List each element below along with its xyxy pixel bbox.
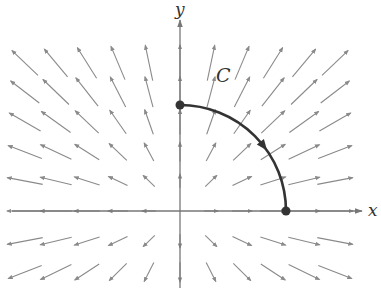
field-arrow-icon — [75, 111, 98, 133]
axes: x y — [12, 0, 378, 288]
field-arrow-icon — [41, 112, 70, 133]
field-arrow-icon — [109, 236, 128, 245]
field-arrow-icon — [44, 49, 67, 77]
field-arrow-icon — [43, 80, 69, 105]
field-arrow-icon — [145, 110, 154, 134]
curve-label: C — [216, 64, 231, 86]
field-arrow-icon — [41, 264, 72, 279]
field-arrow-icon — [261, 264, 285, 280]
field-arrow-icon — [289, 112, 318, 133]
field-arrow-icon — [111, 46, 125, 79]
field-arrow-icon — [8, 146, 42, 159]
field-arrow-icon — [205, 235, 217, 246]
curve-end-point — [282, 207, 291, 216]
field-arrow-icon — [234, 77, 249, 107]
field-arrow-icon — [206, 263, 216, 282]
field-arrow-icon — [12, 51, 38, 76]
field-arrow-icon — [317, 178, 352, 185]
field-arrow-icon — [206, 143, 216, 161]
field-arrow-icon — [109, 263, 126, 280]
field-arrow-icon — [205, 175, 217, 186]
field-arrow-icon — [235, 46, 249, 79]
field-arrow-icon — [7, 238, 42, 245]
field-arrow-icon — [77, 48, 96, 78]
field-arrow-icon — [110, 110, 126, 133]
field-arrow-icon — [263, 48, 282, 78]
field-arrow-icon — [41, 145, 72, 160]
field-arrow-icon — [207, 110, 216, 134]
field-arrow-icon — [289, 145, 320, 160]
field-arrow-icon — [233, 176, 252, 185]
field-arrow-icon — [109, 144, 127, 161]
field-arrow-icon — [75, 264, 99, 280]
field-arrow-icon — [291, 80, 317, 105]
field-arrow-icon — [288, 177, 319, 185]
field-arrow-icon — [288, 237, 319, 245]
field-arrow-icon — [9, 113, 40, 131]
y-axis-label: y — [174, 0, 185, 19]
field-arrow-icon — [143, 175, 155, 186]
field-arrow-icon — [233, 263, 250, 280]
field-arrow-icon — [74, 237, 99, 245]
field-arrow-icon — [40, 177, 71, 185]
field-arrow-icon — [8, 265, 41, 278]
field-arrow-icon — [289, 264, 320, 279]
field-arrow-icon — [75, 144, 99, 159]
curve-path — [180, 105, 286, 211]
field-arrow-icon — [233, 144, 251, 161]
field-arrow-icon — [321, 81, 350, 103]
field-arrow-icon — [144, 143, 154, 161]
vector-field-diagram: x y C — [0, 0, 381, 290]
field-arrow-icon — [261, 111, 284, 133]
field-arrow-icon — [11, 81, 40, 103]
field-arrow-icon — [143, 235, 155, 246]
field-arrow-icon — [7, 178, 42, 185]
field-arrow-icon — [322, 51, 348, 76]
field-arrow-icon — [262, 78, 284, 106]
curve-start-point — [176, 101, 185, 110]
x-axis-label: x — [368, 200, 378, 220]
field-arrow-icon — [317, 238, 352, 245]
field-arrow-icon — [207, 45, 214, 80]
field-arrow-icon — [145, 45, 152, 80]
field-arrow-icon — [318, 146, 352, 159]
field-arrow-icon — [40, 237, 71, 245]
curve-c: C — [176, 64, 291, 216]
field-arrow-icon — [109, 176, 128, 185]
field-arrow-icon — [319, 113, 350, 131]
field-arrow-icon — [145, 77, 153, 107]
field-arrow-icon — [318, 265, 351, 278]
field-arrow-icon — [110, 77, 125, 107]
field-arrow-icon — [233, 236, 252, 245]
field-arrow-icon — [74, 177, 99, 185]
field-arrow-icon — [76, 78, 98, 106]
field-arrow-icon — [207, 77, 215, 107]
field-arrow-icon — [292, 49, 315, 77]
field-arrow-icon — [144, 263, 154, 282]
field-arrow-icon — [260, 237, 285, 245]
